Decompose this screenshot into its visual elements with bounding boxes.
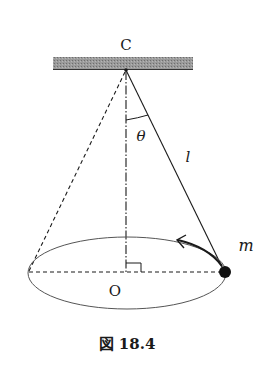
conical-pendulum-diagram: C θ l O m 図 18.4 — [0, 0, 267, 365]
angle-arc — [126, 115, 148, 120]
string-line — [126, 70, 224, 271]
right-angle-mark — [126, 263, 141, 272]
angle-label: θ — [136, 127, 145, 145]
motion-direction-arrow — [177, 235, 222, 266]
mass-bob — [219, 266, 231, 278]
length-label: l — [186, 148, 191, 166]
pivot-label: C — [120, 36, 131, 54]
mass-label: m — [238, 236, 253, 255]
figure-caption: 図 18.4 — [99, 335, 156, 353]
center-label: O — [109, 282, 121, 300]
orbit-ellipse — [28, 237, 226, 309]
cone-edge-dashed — [29, 72, 125, 271]
ceiling-support — [53, 57, 193, 70]
